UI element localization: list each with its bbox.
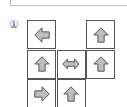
grid-cell (57, 50, 86, 79)
answer-box (10, 0, 127, 6)
arrow-left-icon (33, 26, 51, 44)
grid-cell (27, 50, 56, 79)
arrow-right-icon (33, 85, 51, 103)
grid-cell (86, 50, 115, 79)
arrow-up-icon (62, 85, 80, 103)
grid-cell (27, 20, 56, 49)
grid-cell (86, 20, 115, 49)
arrow-up-icon (92, 26, 110, 44)
option-label: ① (9, 19, 19, 30)
arrow-up-icon (33, 55, 51, 73)
grid-cell (57, 79, 86, 107)
arrow-left-right-icon (62, 55, 80, 73)
grid-cell (27, 79, 56, 107)
arrow-up-icon (92, 55, 110, 73)
